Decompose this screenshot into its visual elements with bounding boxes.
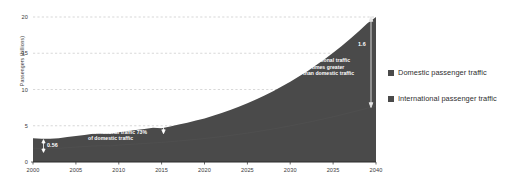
annotation-note-2040-line1: International traffic — [303, 57, 350, 63]
annotation-arrow-2015 — [162, 114, 165, 133]
y-tick-label-20: 20 — [12, 14, 28, 20]
y-tick-label-10: 10 — [12, 87, 28, 93]
annotation-note-2015-line1: International traffic 73% — [88, 129, 147, 135]
y-tick-label-5: 5 — [12, 123, 28, 129]
y-tick-label-15: 15 — [12, 50, 28, 56]
legend-swatch-international-icon — [388, 96, 394, 102]
x-tick-label-2025: 2025 — [235, 167, 259, 173]
passenger-traffic-area-chart: Passengers (billions) 20 15 10 5 0 2000 … — [0, 0, 520, 191]
legend-item-international[interactable]: International passenger traffic — [388, 94, 518, 103]
legend-label-domestic: Domestic passenger traffic — [398, 68, 487, 77]
x-tick-label-2035: 2035 — [321, 167, 345, 173]
x-tick-label-2005: 2005 — [64, 167, 88, 173]
chart-legend: Domestic passenger traffic International… — [388, 68, 518, 120]
x-tick-label-2000: 2000 — [21, 167, 45, 173]
x-tick-label-2015: 2015 — [150, 167, 174, 173]
legend-item-domestic[interactable]: Domestic passenger traffic — [388, 68, 518, 77]
area-total-fill — [33, 17, 376, 162]
annotation-note-2015-line2: of domestic traffic — [88, 135, 133, 141]
annotation-note-2040-line2: 1.6 times greater — [303, 64, 344, 70]
annotation-value-2040: 1.6 — [358, 41, 366, 47]
annotation-value-2015: 0.73 — [167, 117, 178, 123]
legend-label-international: International passenger traffic — [398, 94, 497, 103]
y-tick-label-0: 0 — [12, 159, 28, 165]
x-tick-label-2040: 2040 — [364, 167, 388, 173]
x-tick-label-2020: 2020 — [193, 167, 217, 173]
annotation-value-2000: 0.56 — [47, 142, 58, 148]
legend-swatch-domestic-icon — [388, 70, 394, 76]
x-tick-label-2030: 2030 — [278, 167, 302, 173]
y-axis-title: Passengers (billions) — [19, 6, 25, 116]
annotation-note-2040-line3: than domestic traffic — [303, 70, 354, 76]
x-tick-label-2010: 2010 — [107, 167, 131, 173]
